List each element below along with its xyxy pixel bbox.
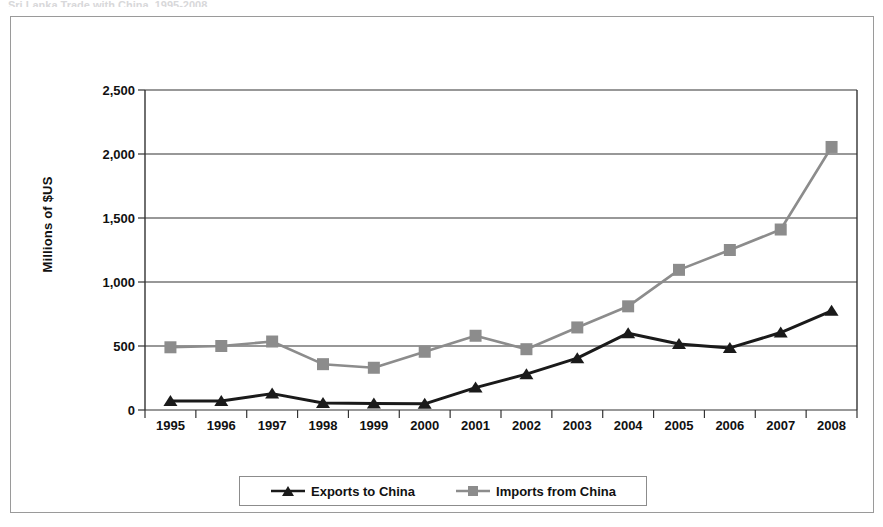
marker-1-2 [266,336,278,348]
x-axis-ticks: 1995199619971998199920002001200220032004… [11,418,875,442]
marker-0-13 [825,305,839,316]
marker-1-0 [164,341,176,353]
legend-label-exports: Exports to China [311,484,415,499]
exports-marker-icon [270,484,306,498]
legend-item-exports[interactable]: Exports to China [270,484,415,499]
marker-0-9 [621,327,635,338]
marker-1-9 [622,300,634,312]
legend-label-imports: Imports from China [496,484,616,499]
marker-1-6 [470,330,482,342]
plot-area: Millions of $US 05001,0001,5002,0002,500… [11,17,875,514]
legend-item-imports[interactable]: Imports from China [455,484,616,499]
x-tick-2008: 2008 [802,418,862,433]
marker-0-8 [570,352,584,363]
marker-1-12 [775,224,787,236]
marker-1-7 [520,343,532,355]
series-line-1 [170,147,831,368]
marker-1-13 [826,141,838,153]
top-caption-sliver: Sri Lanka Trade with China, 1995-2008 [8,0,528,7]
chart-frame: Millions of $US 05001,0001,5002,0002,500… [10,16,874,513]
marker-1-5 [419,346,431,358]
series-line-0 [170,311,831,404]
imports-marker-icon [455,484,491,498]
marker-1-8 [571,321,583,333]
marker-1-11 [724,244,736,256]
marker-1-1 [215,340,227,352]
marker-1-4 [368,362,380,374]
chart-legend: Exports to China Imports from China [239,476,647,506]
marker-1-3 [317,358,329,370]
marker-1-10 [673,264,685,276]
